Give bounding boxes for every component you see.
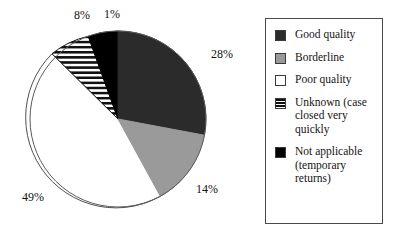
pie-chart: 8% 1% 28% 14% 49% xyxy=(0,0,250,239)
pie-slice-good-quality xyxy=(118,31,206,135)
pie-label-not-applicable: 1% xyxy=(104,7,120,22)
legend-label-not-applicable: Not applicable (temporary returns) xyxy=(295,145,376,186)
pie-label-poor-quality: 49% xyxy=(22,190,44,205)
legend-label-borderline: Borderline xyxy=(295,51,344,65)
pie-label-good-quality: 28% xyxy=(211,47,233,62)
chart-legend: Good quality Borderline Poor quality Unk… xyxy=(265,18,383,224)
legend-item-good-quality: Good quality xyxy=(275,28,376,42)
legend-item-not-applicable: Not applicable (temporary returns) xyxy=(275,145,376,186)
legend-item-poor-quality: Poor quality xyxy=(275,73,376,87)
legend-label-poor-quality: Poor quality xyxy=(295,73,352,87)
pie-label-borderline: 14% xyxy=(196,182,218,197)
white-swatch-icon xyxy=(275,75,286,86)
black-swatch-icon xyxy=(275,147,286,158)
legend-label-unknown: Unknown (case closed very quickly xyxy=(295,96,376,137)
dark-gray-swatch-icon xyxy=(275,30,286,41)
striped-swatch-icon xyxy=(275,98,286,109)
pie-label-unknown: 8% xyxy=(74,8,90,23)
legend-item-borderline: Borderline xyxy=(275,51,376,65)
legend-label-good-quality: Good quality xyxy=(295,28,355,42)
legend-item-unknown: Unknown (case closed very quickly xyxy=(275,96,376,137)
medium-gray-swatch-icon xyxy=(275,53,286,64)
